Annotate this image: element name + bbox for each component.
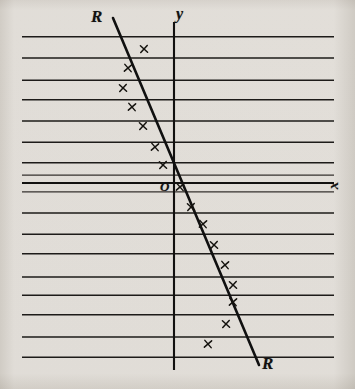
data-point-marker: [204, 340, 211, 347]
data-point-marker: [176, 183, 183, 190]
x-axis-label: x: [326, 182, 341, 190]
data-point-marker: [119, 84, 126, 91]
ruled-grid-lines: [22, 37, 334, 358]
origin-label: O: [160, 180, 169, 193]
figure-scatter-regression: R R y x O: [0, 0, 355, 389]
plot-svg: [0, 0, 355, 389]
data-point-marker: [229, 281, 236, 288]
regression-label-top: R: [91, 8, 102, 25]
data-point-marker: [139, 122, 146, 129]
data-point-marker: [221, 261, 228, 268]
data-point-marker: [222, 320, 229, 327]
regression-label-bottom: R: [262, 355, 273, 372]
data-point-marker: [124, 64, 131, 71]
data-point-marker: [128, 103, 135, 110]
data-point-marker: [151, 143, 158, 150]
plot-area: [0, 0, 355, 389]
data-point-marker: [210, 241, 217, 248]
data-point-markers: [119, 45, 236, 347]
y-axis-label: y: [176, 6, 183, 22]
data-point-marker: [140, 45, 147, 52]
